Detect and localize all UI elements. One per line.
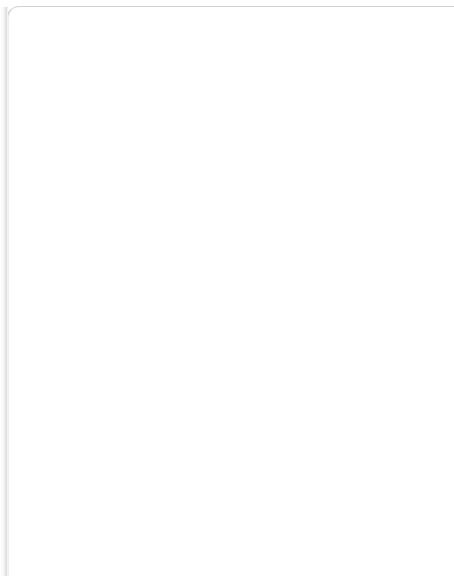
diagram-page: [0, 0, 454, 575]
visual-cortex-hierarchy-diagram: [0, 0, 454, 575]
